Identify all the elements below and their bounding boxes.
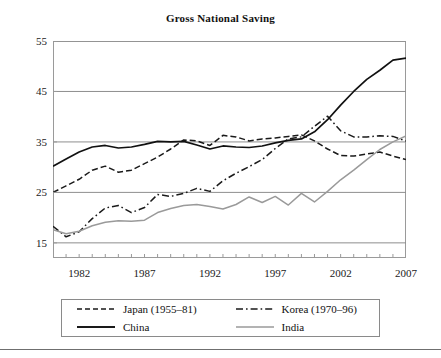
legend-label: Japan (1955–81) xyxy=(123,303,197,315)
y-tick-label-25: 25 xyxy=(36,186,47,198)
x-tick-label-1982: 1982 xyxy=(68,267,90,279)
legend-label: China xyxy=(123,321,149,333)
legend-entry-korea[interactable]: Korea (1970–96) xyxy=(221,303,380,315)
legend-label: India xyxy=(282,321,305,333)
plot-area: 1525354555 198219871992199720022007 xyxy=(53,41,406,258)
legend-entry-japan[interactable]: Japan (1955–81) xyxy=(62,303,221,315)
legend-swatch-solid xyxy=(76,322,116,332)
x-tick-label-2007: 2007 xyxy=(395,267,417,279)
chart-legend: Japan (1955–81)Korea (1970–96)ChinaIndia xyxy=(61,299,380,337)
legend-grid: Japan (1955–81)Korea (1970–96)ChinaIndia xyxy=(62,300,379,336)
legend-swatch-dashdot xyxy=(235,304,275,314)
legend-swatch-solid-gray xyxy=(235,322,275,332)
series-line-korea xyxy=(53,116,406,237)
x-tick-label-1997: 1997 xyxy=(264,267,286,279)
y-tick-label-55: 55 xyxy=(36,35,47,47)
x-tick-label-1987: 1987 xyxy=(134,267,156,279)
y-tick-label-35: 35 xyxy=(36,136,47,148)
y-tick-label-15: 15 xyxy=(36,237,47,249)
legend-swatch-dashed xyxy=(76,304,116,314)
chart-title: Gross National Saving xyxy=(0,12,441,24)
series-line-japan xyxy=(53,135,406,193)
y-tick-label-45: 45 xyxy=(36,85,47,97)
legend-entry-india[interactable]: India xyxy=(221,321,380,333)
figure-container: Gross National Saving 1525354555 1982198… xyxy=(0,0,441,358)
chart-lines-svg xyxy=(53,41,406,258)
page-bottom-rule xyxy=(0,349,441,350)
series-line-china xyxy=(53,58,406,166)
series-line-india xyxy=(53,136,406,234)
legend-label: Korea (1970–96) xyxy=(282,303,357,315)
x-tick-label-2002: 2002 xyxy=(330,267,352,279)
x-tick-label-1992: 1992 xyxy=(199,267,221,279)
legend-entry-china[interactable]: China xyxy=(62,321,221,333)
